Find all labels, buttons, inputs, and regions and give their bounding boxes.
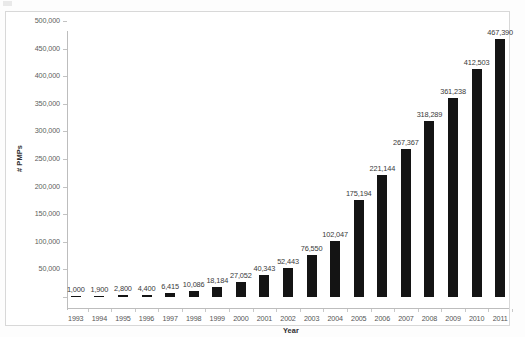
y-axis-tick-label-text: 400,000 [35, 71, 60, 80]
x-axis-tick [371, 309, 372, 312]
x-axis-tick [512, 309, 513, 312]
bar[interactable] [189, 291, 199, 297]
y-axis-tick-label: 400,000 [14, 71, 60, 81]
y-axis-tick-label: 200,000 [14, 182, 60, 192]
x-axis-tick [111, 309, 112, 312]
x-axis-line [67, 308, 509, 309]
x-axis-tick [300, 309, 301, 312]
y-axis-tick-label: 300,000 [14, 126, 60, 136]
y-axis-tick-label-text: 200,000 [35, 182, 60, 191]
bar-value-label: 467,390 [474, 28, 525, 37]
x-axis-tick [229, 309, 230, 312]
y-axis-tick-label-text: 500,000 [35, 16, 60, 25]
x-axis-title: Year [67, 326, 515, 335]
x-axis-tick [88, 309, 89, 312]
bar[interactable] [94, 296, 104, 297]
y-axis-tick-label-text: 300,000 [35, 126, 60, 135]
y-axis-tick-label-text: 350,000 [35, 99, 60, 108]
y-axis-tick-label: 150,000 [14, 209, 60, 219]
bar[interactable] [448, 98, 458, 297]
x-axis-tick [488, 309, 489, 312]
bar[interactable] [142, 295, 152, 297]
x-axis-tick-label: 2011 [485, 314, 515, 323]
bar[interactable] [71, 296, 81, 297]
bar[interactable] [283, 268, 293, 297]
scan-artifact [3, 1, 12, 6]
bar[interactable] [259, 275, 269, 297]
bar[interactable] [118, 295, 128, 297]
x-axis-tick [323, 309, 324, 312]
bar[interactable] [472, 69, 482, 297]
x-axis-tick [465, 309, 466, 312]
bar[interactable] [377, 175, 387, 297]
x-axis-tick [441, 309, 442, 312]
bar[interactable] [424, 121, 434, 297]
y-axis-tick-label: 50,000 [14, 264, 60, 274]
bar[interactable] [495, 39, 505, 297]
y-axis-tick-label-text: 450,000 [35, 44, 60, 53]
y-axis-tick-label: 350,000 [14, 99, 60, 109]
y-axis-tick-label: 100,000 [14, 237, 60, 247]
y-axis-tick-label: 250,000 [14, 154, 60, 164]
y-axis-tick-label-text: 150,000 [35, 209, 60, 218]
x-axis-tick [182, 309, 183, 312]
bar[interactable] [307, 255, 317, 297]
y-axis-tick-label-text: 250,000 [35, 154, 60, 163]
bar[interactable] [212, 287, 222, 297]
x-axis-tick [276, 309, 277, 312]
bar[interactable] [330, 241, 340, 297]
chart-screenshot: # PMPs 50,000100,000150,000200,000250,00… [0, 0, 525, 337]
bar[interactable] [354, 200, 364, 297]
y-axis-tick [63, 21, 67, 22]
bar[interactable] [165, 293, 175, 297]
chart-frame: # PMPs 50,000100,000150,000200,000250,00… [5, 11, 510, 326]
x-axis-tick [347, 309, 348, 312]
bar[interactable] [401, 149, 411, 297]
x-axis-tick [418, 309, 419, 312]
bar[interactable] [236, 282, 246, 297]
y-axis-tick-label-text: 100,000 [35, 237, 60, 246]
y-axis-line [67, 31, 68, 310]
x-axis-tick [205, 309, 206, 312]
y-axis-tick-label: 500,000 [14, 16, 60, 26]
x-axis-tick [394, 309, 395, 312]
y-axis-tick-label: 450,000 [14, 44, 60, 54]
y-axis-tick-label-text: 50,000 [39, 264, 60, 273]
x-axis-tick [253, 309, 254, 312]
x-axis-tick [135, 309, 136, 312]
x-axis-tick [158, 309, 159, 312]
